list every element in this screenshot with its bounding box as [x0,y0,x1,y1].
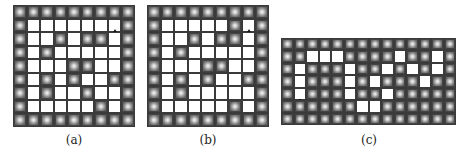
wall-tile [369,113,382,125]
wall-tile [81,86,95,100]
empty-tile [242,32,256,46]
wall-tile [255,113,269,127]
wall-tile [54,5,68,19]
empty-tile [215,86,229,100]
wall-tile [356,50,369,62]
empty-tile [344,75,357,87]
empty-tile [94,46,108,60]
wall-tile [147,19,161,33]
wall-tile [242,113,256,127]
wall-tile [121,32,135,46]
empty-tile [67,32,81,46]
empty-tile [228,46,242,60]
empty-tile [344,88,357,100]
empty-tile [81,19,95,33]
wall-tile [147,100,161,114]
wall-tile [228,19,242,33]
empty-tile [306,50,319,62]
wall-tile [356,75,369,87]
wall-tile [419,50,432,62]
wall-tile [13,19,27,33]
wall-tile [242,73,256,87]
empty-tile [54,59,68,73]
empty-tile [108,46,122,60]
wall-tile [13,59,27,73]
wall-tile [431,75,444,87]
wall-tile [419,38,432,50]
empty-tile [27,59,41,73]
empty-tile [215,19,229,33]
empty-tile [27,73,41,87]
wall-tile [344,100,357,112]
wall-tile [419,63,432,75]
empty-tile [40,100,54,114]
wall-tile [406,88,419,100]
wall-tile [108,73,122,87]
wall-tile [356,113,369,125]
panel-label-a: (a) [66,133,83,147]
empty-tile [431,50,444,62]
wall-tile [121,73,135,87]
wall-tile [306,75,319,87]
empty-tile [54,86,68,100]
wall-tile [306,38,319,50]
wall-tile [444,38,457,50]
empty-tile [201,19,215,33]
empty-tile [381,63,394,75]
wall-tile [67,73,81,87]
empty-tile [54,100,68,114]
empty-tile [201,100,215,114]
wall-tile [215,59,229,73]
wall-tile [444,113,457,125]
empty-tile [108,86,122,100]
wall-tile [431,88,444,100]
wall-tile [40,86,54,100]
empty-tile [242,100,256,114]
empty-tile [94,59,108,73]
wall-tile [188,5,202,19]
wall-tile [281,38,294,50]
empty-tile [94,86,108,100]
empty-tile [161,59,175,73]
money-bag-icon: $ [111,22,119,30]
wall-tile [294,38,307,50]
wall-tile [13,32,27,46]
wall-tile [201,73,215,87]
wall-tile [67,113,81,127]
empty-tile [174,59,188,73]
empty-tile [108,59,122,73]
wall-tile [161,113,175,127]
wall-tile [215,32,229,46]
empty-tile [27,46,41,60]
empty-tile [215,46,229,60]
wall-tile [431,113,444,125]
wall-tile [419,88,432,100]
wall-tile [121,59,135,73]
wall-tile [369,38,382,50]
wall-tile [67,59,81,73]
wall-tile [174,5,188,19]
empty-tile [201,46,215,60]
wall-tile [40,113,54,127]
wall-tile [444,88,457,100]
empty-tile [81,73,95,87]
wall-tile [13,100,27,114]
wall-tile [281,113,294,125]
empty-tile [294,63,307,75]
wall-tile [255,86,269,100]
wall-tile [294,100,307,112]
wall-tile [121,19,135,33]
empty-tile [40,59,54,73]
empty-tile [419,75,432,87]
wall-tile [444,63,457,75]
money-bag-icon: $ [296,91,304,99]
empty-tile [406,63,419,75]
wall-tile [344,113,357,125]
empty-tile [188,86,202,100]
wall-tile [215,113,229,127]
empty-tile [188,59,202,73]
wall-tile [201,5,215,19]
wall-tile [54,113,68,127]
wall-tile [381,38,394,50]
empty-tile [27,32,41,46]
